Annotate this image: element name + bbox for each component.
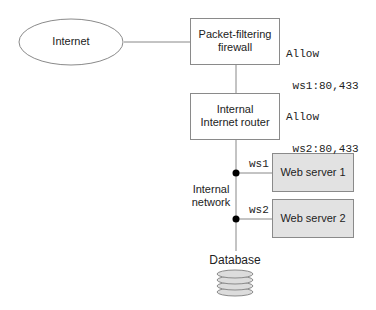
internal-network-label: Internal network	[186, 183, 236, 209]
router-label: Internal Internet router	[190, 103, 280, 129]
router-label-line1: Internal	[190, 103, 280, 116]
router-label-line2: Internet router	[190, 116, 280, 129]
firewall-rules: Allow ws1:80,433 Allow ws2:80,433	[286, 28, 359, 165]
rule-1-detail: ws1:80,433	[286, 81, 359, 92]
firewall-label: Packet-filtering firewall	[190, 28, 280, 54]
ws2-junction-dot	[233, 216, 240, 223]
firewall-label-line2: firewall	[190, 41, 280, 54]
database-label: Database	[200, 254, 270, 267]
ws1-junction-dot	[233, 170, 240, 177]
ws2-interface-label: ws2	[249, 205, 269, 216]
internal-network-line1: Internal	[186, 183, 236, 196]
firewall-label-line1: Packet-filtering	[190, 28, 280, 41]
internet-label: Internet	[19, 35, 123, 48]
internal-network-line2: network	[186, 196, 236, 209]
rule-1-action: Allow	[286, 49, 359, 60]
web-server-2-label: Web server 2	[272, 212, 354, 225]
database-icon	[217, 270, 253, 296]
rule-2-action: Allow	[286, 112, 359, 123]
web-server-1-label: Web server 1	[272, 166, 354, 179]
ws1-interface-label: ws1	[249, 159, 269, 170]
rule-2-detail: ws2:80,433	[286, 144, 359, 155]
